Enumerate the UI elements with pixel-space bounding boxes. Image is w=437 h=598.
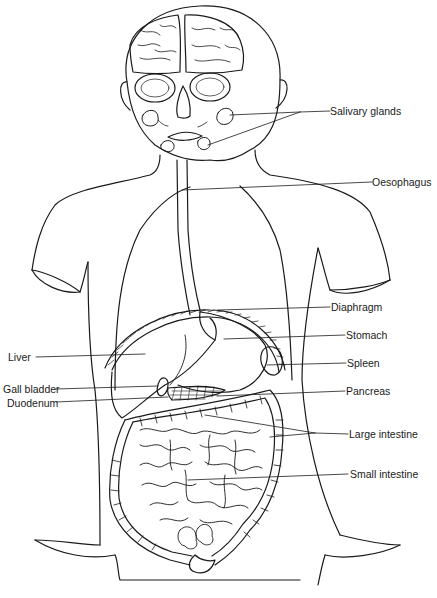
label-pancreas: Pancreas bbox=[346, 385, 390, 397]
head bbox=[121, 6, 287, 161]
oesophagus bbox=[177, 160, 200, 315]
label-diaphragm: Diaphragm bbox=[331, 301, 382, 313]
label-liver: Liver bbox=[8, 351, 31, 363]
label-oesophagus: Oesophagus bbox=[372, 176, 432, 188]
digestive-system-diagram bbox=[0, 0, 437, 598]
label-spleen: Spleen bbox=[347, 357, 380, 369]
label-large-intestine: Large intestine bbox=[349, 428, 418, 440]
leader-lines bbox=[36, 111, 372, 480]
torso bbox=[32, 150, 400, 585]
label-salivary-glands: Salivary glands bbox=[330, 105, 401, 117]
label-gall-bladder: Gall bladder bbox=[3, 383, 60, 395]
brain-right bbox=[185, 15, 244, 73]
label-duodenum: Duodenum bbox=[7, 397, 58, 409]
liver bbox=[111, 318, 216, 418]
label-small-intestine: Small intestine bbox=[350, 468, 418, 480]
label-stomach: Stomach bbox=[346, 329, 387, 341]
small-intestine bbox=[140, 429, 262, 549]
